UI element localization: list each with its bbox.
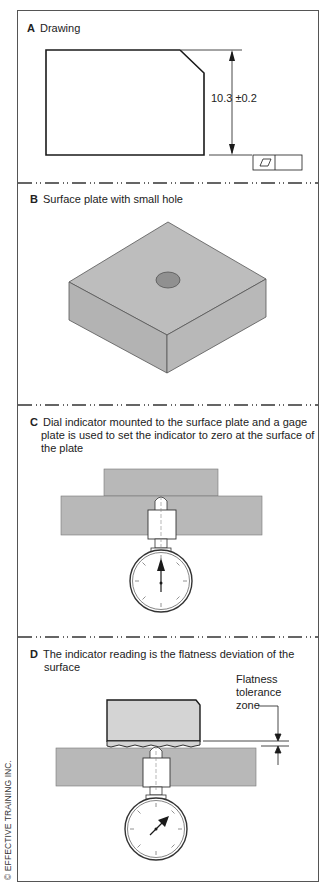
small-hole xyxy=(156,272,180,288)
indicator-stem xyxy=(148,510,176,539)
part-outline-drawing xyxy=(46,50,252,155)
gage-plate xyxy=(104,469,218,496)
surface-plate-isometric xyxy=(69,222,266,373)
diagram-graphics xyxy=(0,0,331,889)
irregular-surface xyxy=(107,741,200,747)
setup-measurement xyxy=(56,700,289,860)
part xyxy=(107,700,200,741)
feature-control-frame xyxy=(253,155,302,170)
setup-zeroing xyxy=(61,469,262,612)
indicator-stem-d xyxy=(143,758,170,787)
